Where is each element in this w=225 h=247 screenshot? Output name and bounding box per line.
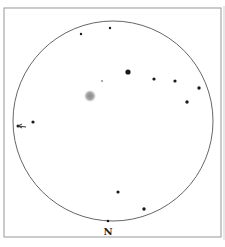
chart-frame — [4, 8, 221, 237]
star-icon — [197, 86, 200, 89]
star-field-chart: N — [0, 0, 225, 247]
star-icon — [173, 79, 176, 82]
star-icon — [80, 33, 82, 35]
star-icon — [125, 69, 130, 74]
north-label: N — [103, 226, 112, 237]
star-icon — [31, 120, 34, 123]
star-icon — [142, 207, 145, 210]
star-icon — [101, 80, 102, 81]
star-icon — [185, 100, 188, 103]
star-icon — [152, 77, 155, 80]
deep-sky-object-icon — [84, 90, 96, 102]
star-icon — [107, 220, 110, 223]
star-icon — [116, 190, 119, 193]
star-icon — [109, 27, 111, 29]
